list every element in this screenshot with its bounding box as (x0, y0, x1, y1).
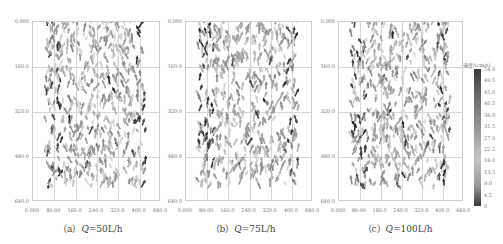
y-tick-label: 640.0 (154, 198, 182, 204)
colorbar-tick-label: 45.0 (484, 89, 495, 95)
y-tick-label: 640.0 (1, 198, 29, 204)
x-tick-label: 480.0 (148, 207, 172, 213)
x-tick-label: 480.0 (451, 207, 475, 213)
colorbar-tick-label: 22.5 (484, 146, 495, 152)
colorbar-tick-label: 31.5 (484, 123, 495, 129)
velocity-vectors-a (33, 22, 161, 202)
plot-area-b (185, 21, 312, 201)
colorbar (474, 69, 481, 206)
panel-caption-c: （c）Q=100L/h (363, 222, 433, 235)
velocity-vectors-b (186, 22, 313, 202)
y-tick-label: 160.0 (1, 63, 29, 69)
y-tick-label: 320.0 (154, 108, 182, 114)
plot-area-a (32, 21, 160, 201)
y-tick-label: 640.0 (307, 198, 335, 204)
panel-caption-b: （b）Q=75L/h (211, 222, 276, 235)
x-tick-label: 480.0 (300, 207, 324, 213)
y-tick-label: 160.0 (154, 63, 182, 69)
colorbar-tick-label: 0 (484, 203, 487, 209)
panel-caption-a: （a）Q=50L/h (58, 222, 123, 235)
colorbar-tick-label: 18.0 (484, 157, 495, 163)
y-tick-label: 0.000 (1, 18, 29, 24)
colorbar-tick-label: 54.0 (484, 66, 495, 72)
colorbar-tick-label: 40.5 (484, 100, 495, 106)
velocity-vectors-c (339, 22, 464, 202)
y-tick-label: 480.0 (154, 153, 182, 159)
colorbar-tick-label: 49.5 (484, 77, 495, 83)
colorbar-tick-label: 36.0 (484, 112, 495, 118)
y-tick-label: 320.0 (307, 108, 335, 114)
colorbar-tick-label: 13.5 (484, 169, 495, 175)
y-tick-label: 480.0 (307, 153, 335, 159)
y-tick-label: 480.0 (1, 153, 29, 159)
colorbar-tick-label: 4.5 (484, 192, 492, 198)
colorbar-tick-label: 9.0 (484, 180, 492, 186)
colorbar-tick-label: 27.0 (484, 135, 495, 141)
y-tick-label: 320.0 (1, 108, 29, 114)
plot-area-c (338, 21, 463, 201)
y-tick-label: 0.000 (154, 18, 182, 24)
y-tick-label: 0.000 (307, 18, 335, 24)
y-tick-label: 160.0 (307, 63, 335, 69)
